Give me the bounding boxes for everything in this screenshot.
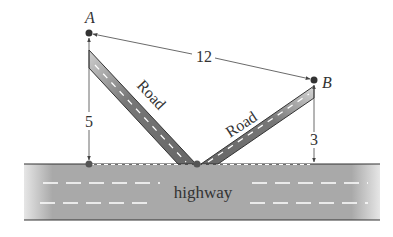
point-B bbox=[311, 77, 318, 84]
road-right: Road bbox=[201, 86, 314, 164]
dimension-A-height-label: 5 bbox=[85, 113, 93, 130]
point-A-label: A bbox=[84, 9, 95, 26]
highway: highway bbox=[24, 164, 380, 220]
point-B-label: B bbox=[322, 74, 332, 91]
point-A-foot bbox=[86, 161, 93, 168]
point-A bbox=[86, 30, 93, 37]
dimension-B-height-label: 3 bbox=[310, 131, 318, 148]
diagram-canvas: highway Road Road 12 5 3 A B bbox=[0, 0, 393, 237]
dimension-AB-label: 12 bbox=[196, 48, 212, 65]
highway-label: highway bbox=[174, 183, 233, 202]
dimension-AB: 12 bbox=[93, 34, 310, 79]
junction-point bbox=[194, 161, 201, 168]
road-left: Road bbox=[89, 50, 196, 164]
